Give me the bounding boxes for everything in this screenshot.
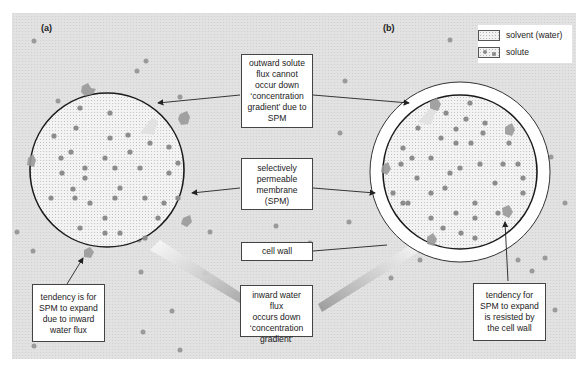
solute-swatch-icon	[478, 47, 500, 58]
legend: solvent (water) solute	[478, 25, 572, 63]
cell-b	[370, 82, 550, 262]
membrane-a	[30, 93, 184, 247]
callout-line: flux cannot	[246, 69, 308, 80]
callout-line: SPM to expand	[478, 301, 541, 312]
callout-line: permeable	[246, 174, 308, 185]
callout-line: occur down	[246, 80, 308, 91]
callout-line: cell wall	[246, 246, 308, 257]
legend-label-solute: solute	[506, 47, 529, 57]
callout-inward-water-flux: inward water flux occurs down ‘concentra…	[240, 285, 313, 337]
callout-tendency-spm-expand: tendency is for SPM to expand due to inw…	[32, 284, 105, 342]
legend-item-solvent: solvent (water)	[478, 29, 562, 41]
callout-line: ‘concentration	[246, 91, 308, 102]
callout-line: inward water flux	[245, 290, 308, 312]
callout-line: occurs down	[245, 312, 308, 323]
callout-line: ‘concentration	[245, 323, 308, 334]
callout-line: due to inward	[37, 314, 100, 325]
callout-tendency-resisted-by-wall: tendency for SPM to expand is resisted b…	[473, 283, 546, 341]
callout-line: water flux	[37, 325, 100, 336]
callout-line: tendency for	[478, 290, 541, 301]
callout-line: gradient’ due to	[246, 102, 308, 113]
callout-line: outward solute	[246, 58, 308, 69]
callout-outward-solute-flux: outward solute flux cannot occur down ‘c…	[241, 54, 313, 128]
callout-line: selectively	[246, 163, 308, 174]
callout-line: membrane	[246, 185, 308, 196]
membrane-b	[383, 95, 537, 249]
callout-line: tendency is for	[37, 292, 100, 303]
callout-cell-wall: cell wall	[241, 242, 313, 261]
panel-label-a: (a)	[41, 23, 52, 33]
callout-line: SPM	[246, 113, 308, 124]
callout-line: SPM to expand	[37, 303, 100, 314]
solvent-swatch-icon	[478, 30, 500, 41]
callout-selectively-permeable-membrane: selectively permeable membrane (SPM)	[241, 158, 313, 210]
callout-line: the cell wall	[478, 323, 541, 334]
callout-line: gradient’	[245, 334, 308, 345]
legend-label-solvent: solvent (water)	[506, 30, 562, 40]
legend-item-solute: solute	[478, 46, 529, 58]
panel-label-b: (b)	[383, 23, 395, 33]
callout-line: is resisted by	[478, 312, 541, 323]
callout-line: (SPM)	[246, 196, 308, 207]
